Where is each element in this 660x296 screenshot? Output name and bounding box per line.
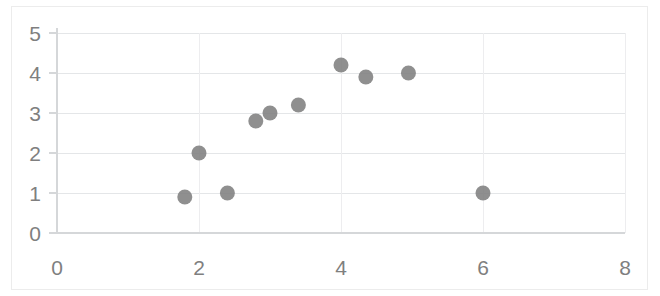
data-point-0-7 bbox=[358, 70, 373, 85]
data-points-group bbox=[177, 58, 490, 205]
scatter-chart: 012345 02468 bbox=[0, 0, 660, 296]
plot-area: 012345 02468 bbox=[0, 0, 660, 296]
y-tick-label-0: 0 bbox=[29, 222, 41, 245]
x-tick-label-6: 6 bbox=[477, 256, 489, 279]
x-tick-labels-group: 02468 bbox=[51, 256, 631, 279]
y-tick-label-4: 4 bbox=[29, 62, 41, 85]
data-point-0-8 bbox=[401, 66, 416, 81]
y-tick-label-3: 3 bbox=[29, 102, 41, 125]
y-tick-marks-group bbox=[49, 33, 57, 233]
data-point-0-1 bbox=[192, 146, 207, 161]
y-tick-label-5: 5 bbox=[29, 22, 41, 45]
data-point-0-0 bbox=[177, 190, 192, 205]
x-tick-label-0: 0 bbox=[51, 256, 63, 279]
data-point-0-4 bbox=[263, 106, 278, 121]
x-tick-label-8: 8 bbox=[619, 256, 631, 279]
data-point-0-9 bbox=[476, 186, 491, 201]
x-tick-label-4: 4 bbox=[335, 256, 347, 279]
data-point-0-3 bbox=[248, 114, 263, 129]
data-point-0-6 bbox=[334, 58, 349, 73]
x-tick-label-2: 2 bbox=[193, 256, 205, 279]
y-tick-label-2: 2 bbox=[29, 142, 41, 165]
data-point-0-2 bbox=[220, 186, 235, 201]
data-point-0-5 bbox=[291, 98, 306, 113]
y-tick-label-1: 1 bbox=[29, 182, 41, 205]
y-tick-labels-group: 012345 bbox=[29, 22, 41, 245]
